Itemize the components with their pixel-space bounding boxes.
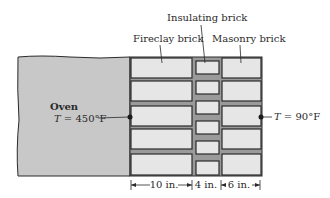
- dim-masonry-label: 6 in.: [228, 179, 250, 190]
- dim-fireclay-label: 10 in.: [150, 179, 179, 190]
- arrowhead: [221, 183, 226, 187]
- oven-temp-label: T = 450°F: [54, 113, 106, 124]
- fireclay-brick-layer: [131, 58, 192, 175]
- masonry-brick: [222, 154, 261, 175]
- masonry-brick: [222, 106, 261, 126]
- insulating-brick: [196, 161, 219, 175]
- inner-surface-point: [128, 115, 133, 120]
- insulating-brick: [196, 141, 219, 154]
- dim-insulating-label: 4 in.: [195, 179, 217, 190]
- insulating-brick-label: Insulating brick: [167, 12, 248, 23]
- insulating-brick: [196, 81, 219, 94]
- composite-wall-diagram: Insulating brick Fireclay brick Masonry …: [0, 0, 330, 198]
- outer-temp-label: T = 90°F: [274, 111, 320, 122]
- arrowhead: [187, 183, 192, 187]
- insulating-brick: [196, 101, 219, 114]
- masonry-brick-label: Masonry brick: [212, 33, 286, 44]
- masonry-brick: [222, 58, 261, 78]
- outer-temp-value: = 90°F: [281, 111, 320, 122]
- masonry-brick: [222, 81, 261, 101]
- insulating-brick: [196, 61, 219, 74]
- masonry-brick-layer: [222, 58, 261, 175]
- arrowhead: [131, 183, 136, 187]
- masonry-brick: [222, 129, 261, 149]
- fireclay-brick-label: Fireclay brick: [133, 33, 204, 44]
- arrowhead: [255, 183, 260, 187]
- fireclay-brick: [131, 154, 192, 175]
- fireclay-brick: [131, 129, 192, 149]
- insulating-brick: [196, 121, 219, 134]
- fireclay-brick: [131, 106, 192, 126]
- oven-temp-value: = 450°F: [61, 113, 107, 124]
- fireclay-brick: [131, 81, 192, 101]
- oven-label: Oven: [50, 101, 79, 112]
